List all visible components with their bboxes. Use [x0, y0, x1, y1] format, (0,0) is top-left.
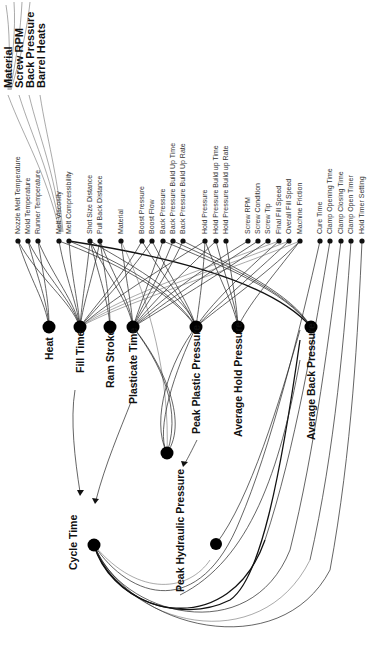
input-label: Nozzle Melt Temperature	[14, 156, 22, 234]
input-label: Back Pressure Build Up Time	[169, 143, 177, 234]
input-label: Mold Temperature	[24, 178, 32, 234]
input-label: Machine Friction	[296, 183, 303, 234]
node-cycle-time	[88, 539, 101, 552]
top-label-barrel-heats: Barrel Heats	[35, 23, 47, 88]
input-label: Hold Pressure	[201, 190, 208, 234]
input-label: Screw Tip	[264, 203, 272, 234]
label-average-hold-pressure: Average Hold Pressure	[232, 322, 244, 437]
input-label: Overall Fill Speed	[285, 179, 293, 234]
input-label: Cure Time	[316, 202, 323, 234]
input-label: Screw RPM	[244, 197, 251, 234]
input-label: Final Fill Speed	[275, 186, 283, 234]
input-label: Hold Pressure Build up Rate	[222, 146, 230, 234]
top-labels: Material Screw RPM Back Pressure Barrel …	[2, 12, 47, 88]
node-labels: Heat Fill Time Ram Stroke Plasticate Tim…	[43, 322, 317, 592]
label-peak-plastic-pressure: Peak Plastic Pressure	[190, 325, 202, 434]
node-peak-hydraulic-pressure	[161, 447, 174, 460]
label-peak-hydraulic-pressure: Peak Hydraulic Pressure	[174, 469, 186, 592]
input-label: Boost Flow	[148, 198, 155, 234]
input-label: Melt Viscosity	[55, 191, 63, 234]
input-label: Back Pressure Build Up Rate	[179, 143, 187, 234]
label-heat: Heat	[43, 337, 55, 360]
input-labels: Nozzle Melt Temperature Mold Temperature…	[14, 143, 366, 234]
input-label: Runner Temperature	[34, 170, 42, 234]
input-label: Back Pressure	[159, 188, 166, 234]
arrow-head-icon	[181, 461, 188, 467]
input-label: Clamp Open Timer	[347, 175, 355, 234]
input-label: Screw Condition	[254, 183, 261, 234]
label-cycle-time: Cycle Time	[67, 515, 79, 570]
label-fill-time: Fill Time	[74, 330, 86, 373]
input-label: Clamp Closing Time	[337, 171, 345, 234]
node-hold-timer-endpoint	[210, 538, 222, 550]
input-label: Pull Back Distance	[96, 176, 103, 234]
label-ram-stroke: Ram Stroke	[104, 329, 116, 388]
input-label: Hold Pressure Build up Time	[212, 145, 220, 234]
label-plasticate-time: Plasticate Time	[127, 328, 139, 404]
input-dots	[15, 238, 364, 243]
process-variable-diagram: Material Screw RPM Back Pressure Barrel …	[0, 0, 376, 663]
node-heat	[43, 321, 56, 334]
input-label: Clamp Opening Time	[326, 168, 334, 234]
arrow-head-icon	[92, 498, 99, 504]
arrow-head-icon	[77, 490, 84, 496]
input-label: Melt Compressibility	[65, 171, 73, 234]
input-label: Shot Size Distance	[86, 175, 93, 234]
input-label: Hold Timer Setting	[358, 176, 366, 234]
input-label: Material	[117, 209, 124, 234]
label-average-back-pressure: Average Back Pressure	[305, 323, 317, 440]
input-label: Boost Pressure	[138, 186, 145, 234]
